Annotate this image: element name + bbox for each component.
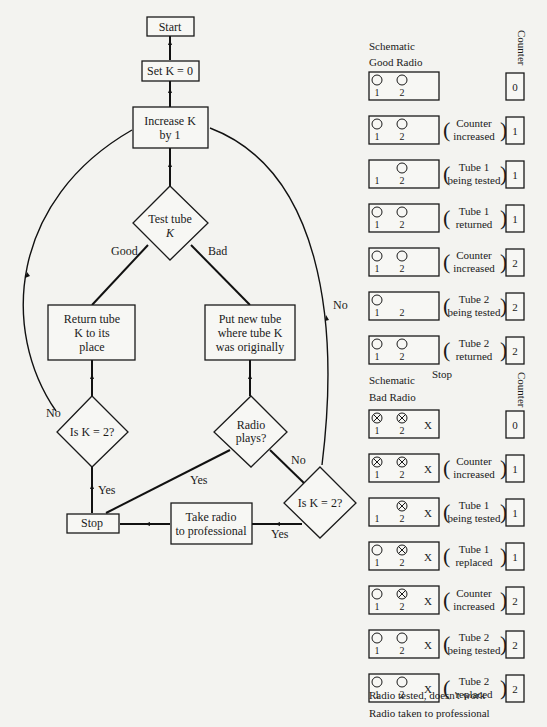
svg-text:increased: increased	[453, 468, 495, 480]
schematic-row: 12X()Tube 1being tested1	[369, 498, 524, 526]
svg-text:plays?: plays?	[236, 431, 267, 445]
tube-label: 2	[400, 263, 405, 274]
node-is-k2-right: Is K = 2?	[284, 467, 356, 538]
tube-label: 2	[400, 307, 405, 318]
paren-open: (	[443, 455, 450, 480]
schematic-row: 12X()Counterincreased1	[369, 454, 524, 482]
svg-text:increased: increased	[453, 600, 495, 612]
paren-open: (	[443, 117, 450, 142]
tube-label: 2	[400, 469, 405, 480]
loop-no-left	[23, 130, 132, 411]
svg-text:Start: Start	[159, 20, 182, 34]
svg-text:Counter: Counter	[456, 587, 492, 599]
label-yes-radio: Yes	[190, 473, 208, 487]
schematic-row: 12()Counterincreased2	[369, 248, 524, 276]
row-note: ()Counterincreased	[443, 455, 507, 480]
row-note: ()Tube 1being tested	[443, 161, 507, 186]
good-radio-panel: Schematic Good Radio Counter 12012()Coun…	[369, 30, 528, 380]
counter-value: 1	[512, 125, 518, 137]
schematic-row: 120	[369, 72, 524, 100]
svg-text:Return tube: Return tube	[64, 312, 120, 326]
counter-value: 2	[512, 345, 518, 357]
svg-text:being tested: being tested	[448, 306, 501, 318]
tube-label: 2	[400, 175, 405, 186]
counter-value: 1	[512, 213, 518, 225]
tube-label: 1	[375, 219, 380, 230]
svg-text:being tested: being tested	[448, 644, 501, 656]
paren-open: (	[443, 205, 450, 230]
svg-text:Is K = 2?: Is K = 2?	[70, 425, 114, 439]
good-radio-subtitle: Good Radio	[369, 56, 423, 68]
label-yes-left: Yes	[98, 483, 116, 497]
label-no-radio: No	[291, 453, 306, 467]
bad-radio-panel: Schematic Bad Radio Counter 12X012X()Cou…	[369, 372, 528, 719]
bad-radio-title: Schematic	[369, 374, 415, 386]
schematic-row: 12X()Counterincreased2	[369, 586, 524, 614]
fault-mark: X	[424, 419, 432, 431]
paren-open: (	[443, 543, 450, 568]
svg-text:where tube K: where tube K	[218, 326, 283, 340]
good-radio-title: Schematic	[369, 40, 415, 52]
svg-text:Tube 2: Tube 2	[459, 675, 489, 687]
node-set-k: Set K = 0	[142, 61, 199, 81]
counter-value: 2	[512, 683, 518, 695]
tube-label: 1	[375, 263, 380, 274]
row-note: ()Tube 2returned	[443, 337, 507, 362]
counter-value: 0	[512, 81, 518, 93]
tube-label: 2	[400, 425, 405, 436]
svg-text:Is K = 2?: Is K = 2?	[298, 496, 342, 510]
bad-radio-subtitle: Bad Radio	[369, 391, 416, 403]
fault-mark: X	[424, 639, 432, 651]
svg-text:Test tube: Test tube	[148, 212, 191, 226]
svg-text:by 1: by 1	[160, 128, 181, 142]
node-take-radio: Take radio to professional	[171, 503, 252, 544]
tube-label: 1	[375, 307, 380, 318]
svg-text:Tube 2: Tube 2	[459, 337, 489, 349]
svg-text:replaced: replaced	[455, 556, 493, 568]
schematic-row: 12()Tube 1being tested1	[369, 160, 524, 188]
fault-mark: X	[424, 551, 432, 563]
label-good: Good	[111, 244, 138, 258]
label-no-right-loop: No	[333, 298, 348, 312]
svg-text:Tube 1: Tube 1	[459, 499, 489, 511]
counter-value: 2	[512, 301, 518, 313]
node-is-k2-left: Is K = 2?	[57, 396, 128, 467]
bad-radio-footer-1: Radio tested, doesn't work	[369, 689, 486, 701]
svg-text:Put new tube: Put new tube	[219, 312, 282, 326]
row-note: ()Tube 2being tested	[443, 631, 507, 656]
node-put-new-tube: Put new tube where tube K was originally	[205, 305, 295, 360]
row-note: ()Counterincreased	[443, 249, 507, 274]
node-return-tube: Return tube K to its place	[48, 305, 135, 360]
node-increase-k: Increase K by 1	[133, 107, 208, 148]
counter-value: 1	[512, 551, 518, 563]
row-note: ()Tube 2being tested	[443, 293, 507, 318]
label-no-left: No	[46, 406, 61, 420]
tube-label: 1	[375, 425, 380, 436]
fault-mark: X	[424, 595, 432, 607]
schematic-row: 12()Tube 2being tested2	[369, 292, 524, 320]
counter-header: Counter	[516, 30, 528, 66]
svg-text:Tube 1: Tube 1	[459, 205, 489, 217]
svg-text:K: K	[165, 226, 175, 240]
row-note: ()Tube 1returned	[443, 205, 507, 230]
schematic-row: 12()Tube 1returned1	[369, 204, 524, 232]
svg-text:to professional: to professional	[176, 524, 248, 538]
schematic-row: 12()Tube 2returned2	[369, 336, 524, 364]
tube-label: 2	[400, 601, 405, 612]
schematic-row: 12X()Tube 1replaced1	[369, 542, 524, 570]
tube-label: 1	[375, 645, 380, 656]
counter-value: 1	[512, 463, 518, 475]
svg-text:returned: returned	[456, 350, 493, 362]
counter-value: 2	[512, 639, 518, 651]
counter-header-bad: Counter	[516, 372, 528, 408]
schematic-row: 12()Counterincreased1	[369, 116, 524, 144]
tube-label: 1	[375, 601, 380, 612]
svg-text:Tube 2: Tube 2	[459, 293, 489, 305]
counter-value: 2	[512, 257, 518, 269]
paren-open: (	[443, 337, 450, 362]
paren-open: (	[443, 249, 450, 274]
svg-text:increased: increased	[453, 130, 495, 142]
bad-radio-footer-2: Radio taken to professional	[369, 707, 490, 719]
fault-mark: X	[424, 463, 432, 475]
tube-label: 1	[375, 175, 380, 186]
